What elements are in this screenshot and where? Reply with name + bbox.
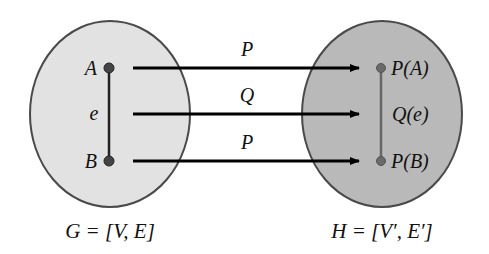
graph-g-caption: G = [V, E] (65, 219, 155, 243)
arrow-p-a-label: P (240, 38, 253, 60)
node-p-a (377, 64, 386, 73)
edge-q-e-label: Q(e) (392, 103, 429, 126)
node-b (104, 156, 114, 166)
node-p-a-label: P(A) (390, 57, 429, 80)
arrow-q-e-label: Q (240, 84, 255, 106)
node-p-b-label: P(B) (390, 150, 429, 173)
node-a (104, 63, 114, 73)
node-a-label: A (83, 57, 98, 79)
graph-h-caption: H = [V′, E′] (330, 219, 433, 243)
node-p-b (377, 157, 386, 166)
arrow-p-b-label: P (240, 131, 253, 153)
node-b-label: B (85, 150, 97, 172)
homomorphism-diagram: A e B P(A) Q(e) P(B) P Q P G = [V, E] H … (0, 0, 489, 254)
edge-e-label: e (90, 102, 99, 124)
